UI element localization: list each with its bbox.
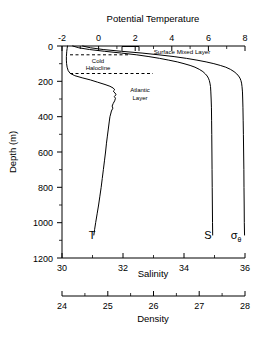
- depth-tick-label: 800: [38, 183, 53, 193]
- annotation-atlantic-layer-line1: Atlantic: [130, 87, 150, 93]
- salinity-tick-label: 34: [179, 263, 189, 273]
- density-tick-label: 26: [148, 301, 158, 311]
- density-tick-label: 24: [57, 301, 67, 311]
- top-tick-label: -2: [58, 33, 66, 43]
- depth-tick-label: 200: [38, 77, 53, 87]
- salinity-tick-label: 32: [118, 263, 128, 273]
- annotation-surface-mixed-layer: Surface Mixed Layer: [154, 48, 211, 55]
- depth-tick-label: 0: [48, 42, 53, 52]
- axis-title-potential-temperature: Potential Temperature: [107, 13, 200, 24]
- oceanographic-profile-figure: Potential Temperature -2 0 2 4 6 8: [0, 0, 270, 342]
- curve-label-temperature: T: [89, 229, 96, 241]
- axis-title-salinity: Salinity: [138, 268, 169, 279]
- annotation-cold-halocline-line2: Halocline: [86, 65, 111, 71]
- density-tick-label: 25: [103, 301, 113, 311]
- axis-title-depth: Depth (m): [7, 131, 18, 173]
- annotation-cold-halocline-line1: Cold: [92, 58, 104, 64]
- depth-tick-label: 1000: [33, 218, 53, 228]
- annotation-atlantic-layer-line2: Layer: [132, 95, 147, 101]
- density-tick-label: 27: [194, 301, 204, 311]
- top-tick-label: 0: [96, 33, 101, 43]
- depth-tick-label: 1200: [33, 254, 53, 264]
- top-tick-label: 8: [242, 33, 247, 43]
- axis-title-density: Density: [137, 313, 169, 324]
- top-tick-label: 4: [169, 33, 174, 43]
- density-tick-label: 28: [240, 301, 250, 311]
- profile-chart-svg: Potential Temperature -2 0 2 4 6 8: [0, 0, 270, 342]
- curve-label-salinity: S: [204, 229, 211, 241]
- depth-tick-label: 600: [38, 148, 53, 158]
- chart-background: [0, 0, 270, 342]
- salinity-tick-label: 36: [240, 263, 250, 273]
- top-tick-label: 2: [133, 33, 138, 43]
- depth-tick-label: 400: [38, 112, 53, 122]
- salinity-tick-label: 30: [57, 263, 67, 273]
- top-tick-label: 6: [206, 33, 211, 43]
